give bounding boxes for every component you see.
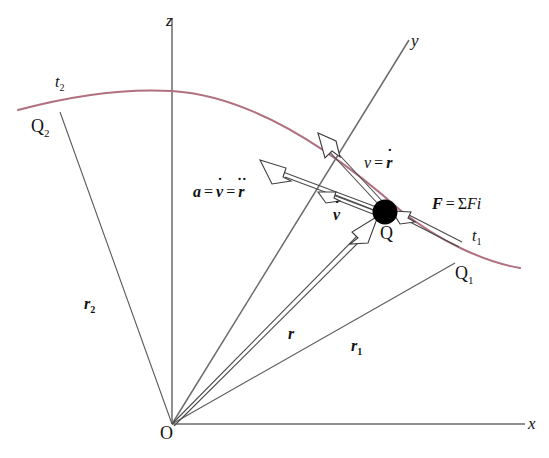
t1-label: t1 — [472, 228, 481, 247]
v-vector-arrowhead — [318, 133, 340, 158]
vdot-vector-label: ˙v — [333, 207, 340, 223]
velocity-equation-equals: = — [371, 154, 386, 171]
acceleration-equation-mid: ˙v — [216, 184, 223, 200]
figure-canvas — [0, 0, 549, 458]
r1-vector-label: r1 — [351, 338, 362, 357]
t2-label: t2 — [55, 74, 64, 93]
q1-point-label: Q1 — [455, 264, 474, 286]
force-equation-rhs: F — [467, 195, 477, 212]
r2-vector-label-sub: 2 — [90, 304, 95, 315]
q2-point-label: Q2 — [31, 117, 50, 139]
origin-label: O — [160, 424, 173, 442]
r2-vector-label: r2 — [84, 296, 95, 315]
q1-point-label-base: Q — [455, 263, 468, 283]
particle-q-dot — [373, 200, 398, 225]
F-vector-shaft-a — [407, 214, 462, 242]
a-vector-arrowhead — [260, 160, 291, 184]
y-axis-line — [172, 40, 409, 424]
q2-point-label-sub: 2 — [44, 127, 50, 139]
velocity-equation: v=˙r — [364, 155, 392, 171]
r2-ray-line — [60, 112, 172, 424]
q2-point-label-base: Q — [31, 116, 44, 136]
acceleration-equation-rhs-dots: ˙˙ — [237, 175, 246, 190]
vdot-accent-dots: ˙ — [334, 198, 339, 213]
x-axis-label: x — [528, 415, 536, 432]
z-axis-label: z — [166, 12, 173, 29]
r-vector-label: r — [288, 326, 294, 342]
acceleration-equation-equals-2: = — [223, 183, 238, 200]
axes-group — [172, 18, 525, 424]
t1-label-sub: 1 — [476, 236, 481, 247]
force-equation-index: i — [477, 195, 481, 212]
force-equation-sigma: Σ — [458, 195, 467, 212]
q-point-label: Q — [380, 224, 393, 242]
F-vector-shaft-b — [404, 219, 459, 247]
force-equation: F=ΣFi — [432, 196, 481, 212]
acceleration-equation-equals-1: = — [201, 183, 216, 200]
vdot-accent-wrap: ˙v — [333, 207, 340, 223]
kinematics-diagram: z y x O t2 t1 Q2 Q Q1 r2 r r1 ˙v v=˙r a=… — [0, 0, 549, 458]
acceleration-equation-mid-dots: ˙ — [217, 175, 222, 190]
q1-point-label-sub: 1 — [468, 274, 474, 286]
velocity-equation-rhs: ˙r — [386, 155, 392, 171]
a-vector — [260, 160, 381, 213]
r-vector — [172, 216, 378, 426]
force-equation-lhs: F — [432, 195, 443, 212]
velocity-equation-rhs-dots: ˙ — [387, 146, 392, 161]
r-vector-arrowhead — [350, 216, 378, 244]
r-vector-shaft-a — [172, 227, 366, 424]
acceleration-equation: a=˙v=˙˙r — [193, 184, 244, 200]
position-rays-group — [60, 112, 455, 424]
t2-label-sub: 2 — [59, 82, 64, 93]
y-axis-label: y — [411, 32, 419, 49]
r1-vector-label-sub: 1 — [357, 346, 362, 357]
acceleration-equation-lhs: a — [193, 183, 201, 200]
acceleration-equation-rhs: ˙˙r — [238, 184, 244, 200]
force-equation-equals: = — [443, 195, 458, 212]
